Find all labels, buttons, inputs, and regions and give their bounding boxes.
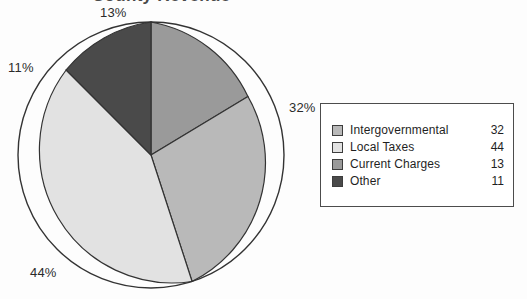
chart-page: County Revenue 13% 32% 44% 11% Intergove… (0, 0, 527, 299)
legend-item-label: Current Charges (350, 157, 484, 171)
legend: Intergovernmental 32 Local Taxes 44 Curr… (320, 103, 514, 207)
legend-item-label: Other (350, 174, 484, 188)
pie-chart (0, 0, 310, 299)
legend-item-local-taxes: Local Taxes 44 (332, 139, 504, 155)
legend-item-value: 44 (484, 140, 504, 154)
legend-swatch-icon (332, 159, 343, 170)
legend-item-value: 13 (484, 157, 504, 171)
legend-item-label: Intergovernmental (350, 123, 484, 137)
legend-item-current-charges: Current Charges 13 (332, 156, 504, 172)
legend-item-value: 11 (484, 174, 504, 188)
pie-label-intergovernmental-percent: 32% (289, 100, 316, 115)
legend-swatch-icon (332, 142, 343, 153)
legend-item-label: Local Taxes (350, 140, 484, 154)
pie-label-other-percent: 11% (8, 60, 34, 75)
legend-item-other: Other 11 (332, 173, 504, 189)
legend-item-intergovernmental: Intergovernmental 32 (332, 122, 504, 138)
pie-label-current-charges-percent: 13% (100, 5, 127, 20)
legend-swatch-icon (332, 125, 343, 136)
pie-chart-svg (0, 0, 310, 299)
legend-item-value: 32 (484, 123, 504, 137)
legend-swatch-icon (332, 176, 343, 187)
pie-label-local-taxes-percent: 44% (30, 265, 57, 280)
legend-rows: Intergovernmental 32 Local Taxes 44 Curr… (332, 122, 504, 190)
